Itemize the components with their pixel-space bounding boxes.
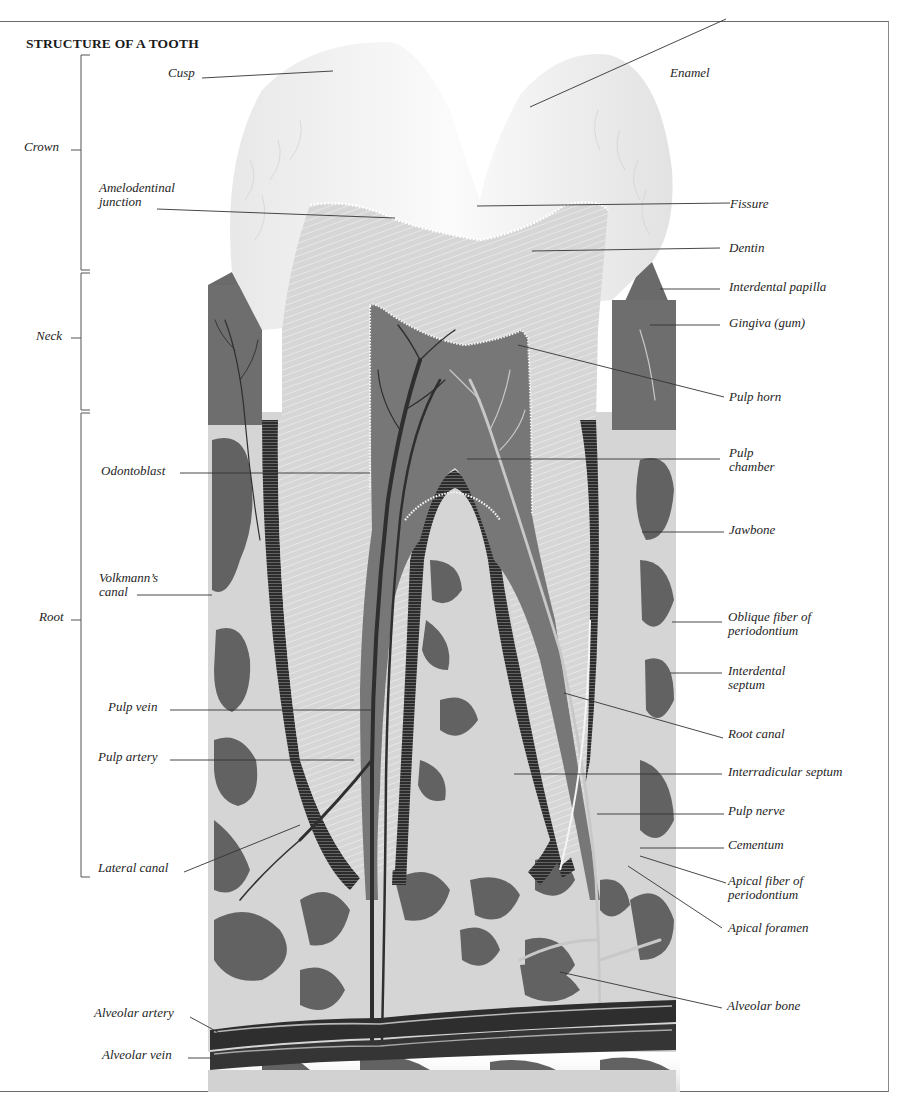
label-pulp-nerve: Pulp nerve (728, 804, 785, 818)
label-pulp-vein: Pulp vein (108, 700, 157, 714)
label-cementum: Cementum (728, 838, 784, 852)
label-jawbone: Jawbone (729, 523, 775, 537)
label-oblique-fiber-2: periodontium (728, 624, 798, 638)
label-apical-foramen: Apical foramen (728, 921, 809, 935)
label-oblique-fiber-1: Oblique fiber of (728, 610, 811, 624)
bracket-crown (81, 55, 90, 270)
region-brackets (71, 55, 90, 877)
label-root-canal: Root canal (728, 727, 785, 741)
label-dentin: Dentin (729, 241, 764, 255)
label-apical-fiber-1: Apical fiber of (728, 874, 803, 888)
label-lateral-canal: Lateral canal (98, 861, 168, 875)
label-pulp-horn: Pulp horn (729, 390, 781, 404)
region-label-root: Root (39, 610, 64, 624)
label-amelodentinal-junction-1: Amelodentinal (99, 181, 175, 195)
region-label-neck: Neck (36, 329, 62, 343)
label-alveolar-artery: Alveolar artery (94, 1006, 174, 1020)
label-pulp-artery: Pulp artery (98, 750, 158, 764)
label-pulp-chamber-2: chamber (729, 460, 775, 474)
label-cusp: Cusp (168, 66, 195, 80)
label-gingiva: Gingiva (gum) (729, 316, 805, 330)
label-volkmanns-canal-2: canal (99, 585, 128, 599)
label-fissure: Fissure (730, 197, 769, 211)
label-apical-fiber-2: periodontium (728, 888, 798, 902)
label-alveolar-bone: Alveolar bone (727, 999, 800, 1013)
region-label-crown: Crown (24, 140, 59, 154)
gum-right (612, 300, 676, 430)
label-interdental-septum-1: Interdental (728, 664, 785, 678)
label-pulp-chamber-1: Pulp (729, 446, 754, 460)
bracket-root (81, 413, 90, 877)
label-alveolar-vein: Alveolar vein (102, 1048, 172, 1062)
label-volkmanns-canal-1: Volkmann’s (99, 571, 158, 585)
label-interdental-septum-2: septum (728, 678, 765, 692)
label-odontoblast: Odontoblast (101, 464, 165, 478)
label-enamel: Enamel (670, 66, 710, 80)
bracket-neck (81, 273, 90, 410)
label-interdental-papilla: Interdental papilla (729, 280, 826, 294)
tooth-illustration (0, 0, 904, 1102)
label-amelodentinal-junction-2: junction (99, 195, 142, 209)
bone-base (208, 1070, 676, 1092)
label-interradicular-septum: Interradicular septum (728, 765, 842, 779)
